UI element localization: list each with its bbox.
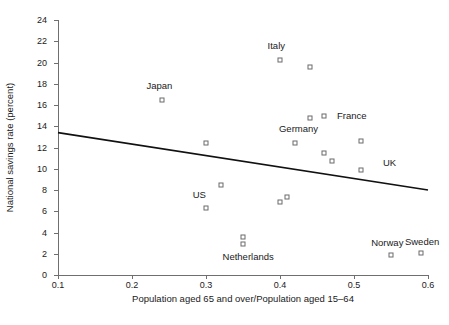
y-tick-label: 2 <box>42 249 47 258</box>
y-tick-label: 18 <box>37 79 47 88</box>
y-tick-label: 10 <box>37 164 47 173</box>
x-tick-label: 0.2 <box>126 281 139 290</box>
country-label: Sweden <box>405 237 439 247</box>
x-tick-label: 0.5 <box>348 281 361 290</box>
data-point-marker <box>418 250 423 255</box>
data-point-marker <box>241 242 246 247</box>
x-tick-label: 0.3 <box>200 281 213 290</box>
x-tick-label: 0.6 <box>422 281 435 290</box>
data-point-marker <box>307 64 312 69</box>
country-label: France <box>337 111 367 121</box>
data-point-marker <box>278 58 283 63</box>
y-axis-title: National savings rate (percent) <box>4 20 16 275</box>
data-point-marker <box>204 141 209 146</box>
y-tick-label: 4 <box>42 228 47 237</box>
data-point-marker <box>285 195 290 200</box>
x-tick-label: 0.1 <box>52 281 65 290</box>
y-tick-label: 8 <box>42 186 47 195</box>
y-tick-label: 12 <box>37 143 47 152</box>
scatter-chart-figure: National savings rate (percent) Populati… <box>0 0 449 325</box>
country-label: Netherlands <box>223 252 274 262</box>
data-point-marker <box>218 182 223 187</box>
y-tick-label: 14 <box>37 122 47 131</box>
data-point-marker <box>322 113 327 118</box>
x-tick-label: 0.4 <box>274 281 287 290</box>
plot-area: 024681012141618202224 0.10.20.30.40.50.6… <box>58 20 428 275</box>
data-point-marker <box>307 115 312 120</box>
y-tick-label: 0 <box>42 271 47 280</box>
data-point-marker <box>359 139 364 144</box>
y-tick-label: 24 <box>37 16 47 25</box>
country-label: Germany <box>279 124 318 134</box>
y-tick-label: 6 <box>42 207 47 216</box>
country-label: Norway <box>371 238 403 248</box>
data-point-marker <box>204 206 209 211</box>
y-tick-label: 16 <box>37 101 47 110</box>
data-point-marker <box>241 234 246 239</box>
data-point-marker <box>159 97 164 102</box>
country-label: Japan <box>146 81 172 91</box>
data-point-marker <box>278 199 283 204</box>
data-point-marker <box>322 150 327 155</box>
data-point-marker <box>292 141 297 146</box>
country-label: UK <box>383 158 396 168</box>
country-label: Italy <box>268 41 285 51</box>
y-tick-label: 20 <box>37 58 47 67</box>
data-point-marker <box>329 159 334 164</box>
country-label: US <box>193 190 206 200</box>
x-axis-title: Population aged 65 and over/Population a… <box>58 293 428 305</box>
data-point-marker <box>359 167 364 172</box>
data-point-marker <box>389 252 394 257</box>
y-tick-label: 22 <box>37 37 47 46</box>
